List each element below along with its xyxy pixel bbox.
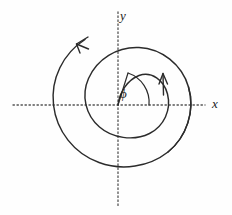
spiral-outer-tail xyxy=(168,87,191,152)
angle-arc xyxy=(128,73,149,105)
y-axis-label: y xyxy=(120,9,126,22)
x-axis-label: x xyxy=(212,97,218,110)
direction-arrow-top-left-icon xyxy=(77,37,89,53)
figure-canvas xyxy=(0,0,232,215)
spiral-figure: y x ϕ xyxy=(0,0,232,215)
angle-label-phi: ϕ xyxy=(120,87,127,100)
spiral-curve xyxy=(53,40,191,167)
